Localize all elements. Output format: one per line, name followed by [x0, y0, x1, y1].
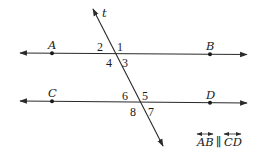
given-ray-cd: CD [224, 135, 242, 149]
angle-2-label: 2 [97, 40, 103, 54]
transversal-label: t [102, 6, 107, 20]
given-ray-ab: AB [196, 135, 214, 149]
angle-1-label: 1 [117, 40, 123, 54]
point-d-label: D [205, 88, 215, 102]
angle-4-label: 4 [106, 56, 112, 70]
angle-3-label: 3 [122, 56, 128, 70]
angle-6-label: 6 [122, 89, 128, 103]
angle-5-label: 5 [142, 89, 148, 103]
angle-8-label: 8 [130, 105, 136, 119]
point-b-label: B [205, 39, 214, 53]
point-a-label: A [47, 38, 56, 52]
angle-7-label: 7 [148, 105, 154, 119]
line-ab [20, 53, 247, 55]
parallel-statement: AB ∥ CD [196, 134, 242, 149]
transversal-t [93, 9, 163, 146]
parallel-lines-diagram: t A B C D 2 1 4 3 6 5 8 7 AB ∥ CD [0, 0, 254, 156]
parallel-symbol: ∥ [216, 135, 222, 149]
point-c-label: C [48, 86, 57, 100]
